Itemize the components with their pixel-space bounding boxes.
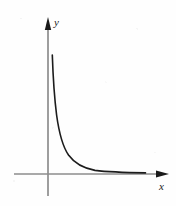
plot-canvas: y x: [0, 0, 176, 206]
y-axis-arrowhead: [45, 17, 51, 30]
x-axis-label: x: [158, 180, 164, 192]
y-axis-label: y: [53, 16, 59, 28]
function-graph-figure: y x: [0, 0, 176, 206]
x-axis-arrowhead: [156, 171, 169, 178]
decay-curve: [52, 55, 145, 173]
